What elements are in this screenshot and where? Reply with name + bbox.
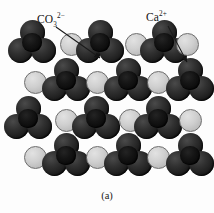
carbonate-carbon-sphere [56,71,76,91]
crystal-lattice [0,0,214,213]
label-calcium-base: Ca [146,11,159,23]
label-carbonate-base: CO [37,13,53,25]
carbonate-carbon-sphere [56,146,76,166]
carbonate-carbon-sphere [180,146,200,166]
label-calcium: Ca2+ [146,10,167,23]
label-carbonate-subscript: 3 [53,21,57,29]
label-calcium-superscript: 2+ [159,10,167,18]
carbonate-carbon-sphere [148,109,168,129]
carbonate-carbon-sphere [180,71,200,91]
carbonate-carbon-sphere [90,33,110,53]
carbonate-carbon-sphere [118,71,138,91]
calcium-ion-sphere [179,109,202,132]
carbonate-carbon-sphere [118,146,138,166]
figure-container: CO32− Ca2+ (a) [0,0,214,213]
label-carbonate-superscript: 2− [57,12,65,20]
carbonate-carbon-sphere [18,109,38,129]
calcium-ion-sphere [176,33,199,56]
label-carbonate: CO32− [37,12,65,28]
carbonate-carbon-sphere [86,109,106,129]
carbonate-carbon-sphere [154,33,174,53]
figure-caption: (a) [0,190,214,201]
carbonate-carbon-sphere [22,33,42,53]
